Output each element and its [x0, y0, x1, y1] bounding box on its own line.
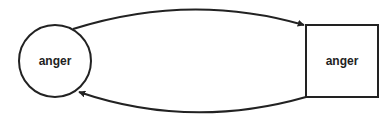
diagram-canvas: anger anger — [0, 0, 390, 117]
circle-node[interactable]: anger — [19, 25, 91, 97]
square-node-label: anger — [326, 54, 359, 68]
edge-square-to-circle — [79, 92, 306, 112]
edge-circle-to-square — [73, 9, 304, 29]
square-node[interactable]: anger — [306, 25, 378, 97]
circle-node-label: anger — [39, 54, 72, 68]
